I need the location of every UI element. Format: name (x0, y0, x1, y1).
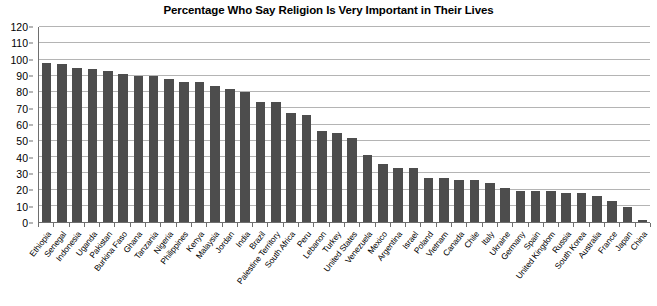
bar-slot[interactable] (192, 27, 207, 222)
bar[interactable] (195, 82, 205, 222)
bar[interactable] (561, 193, 571, 222)
bar[interactable] (638, 220, 648, 222)
x-axis-tick-mark (160, 223, 161, 227)
bar[interactable] (470, 180, 480, 222)
bar-slot[interactable] (574, 27, 589, 222)
bar-slot[interactable] (604, 27, 619, 222)
bar[interactable] (592, 196, 602, 222)
bar-slot[interactable] (284, 27, 299, 222)
bar-slot[interactable] (70, 27, 85, 222)
bar[interactable] (347, 138, 357, 223)
bar[interactable] (271, 102, 281, 222)
bar-slot[interactable] (146, 27, 161, 222)
bar[interactable] (134, 76, 144, 222)
x-axis-tick-mark (650, 223, 651, 227)
bar[interactable] (378, 164, 388, 223)
bar[interactable] (516, 191, 526, 222)
y-axis-tick-label: 100 (10, 54, 28, 66)
bar[interactable] (179, 82, 189, 222)
bar-slot[interactable] (543, 27, 558, 222)
bar-slot[interactable] (421, 27, 436, 222)
y-axis: 0102030405060708090100110120 (0, 27, 33, 223)
bar-slot[interactable] (406, 27, 421, 222)
y-axis-tick-label: 60 (16, 119, 28, 131)
y-axis-tick-label: 0 (22, 217, 28, 229)
bar-slot[interactable] (329, 27, 344, 222)
bar-slot[interactable] (482, 27, 497, 222)
bar-slot[interactable] (115, 27, 130, 222)
bar[interactable] (103, 71, 113, 222)
bar-slot[interactable] (207, 27, 222, 222)
bar[interactable] (317, 131, 327, 222)
bar[interactable] (577, 193, 587, 222)
bar[interactable] (546, 191, 556, 222)
bar-slot[interactable] (497, 27, 512, 222)
bar[interactable] (500, 188, 510, 222)
bar[interactable] (424, 178, 434, 222)
x-axis-tick-mark (206, 223, 207, 227)
bar-slot[interactable] (635, 27, 650, 222)
bar-slot[interactable] (100, 27, 115, 222)
bar-slot[interactable] (314, 27, 329, 222)
x-axis-tick-mark (420, 223, 421, 227)
y-axis-tick-mark (29, 223, 33, 224)
bar-slot[interactable] (528, 27, 543, 222)
x-axis-label-slot: China (635, 228, 650, 306)
bar[interactable] (42, 63, 52, 222)
y-axis-tick-mark (29, 59, 33, 60)
bar-slot[interactable] (436, 27, 451, 222)
y-axis-tick-mark (29, 125, 33, 126)
x-axis-tick-mark (267, 223, 268, 227)
bar-slot[interactable] (268, 27, 283, 222)
bar-slot[interactable] (375, 27, 390, 222)
bar[interactable] (286, 113, 296, 222)
bar[interactable] (256, 102, 266, 222)
bar-slot[interactable] (222, 27, 237, 222)
x-axis-tick-mark (573, 223, 574, 227)
bar[interactable] (302, 115, 312, 222)
bar-slot[interactable] (513, 27, 528, 222)
bar[interactable] (72, 68, 82, 222)
x-axis-tick-mark (604, 223, 605, 227)
bar-slot[interactable] (589, 27, 604, 222)
y-axis-tick-mark (29, 174, 33, 175)
bar-chart: Percentage Who Say Religion Is Very Impo… (0, 0, 657, 306)
bar[interactable] (485, 183, 495, 222)
y-axis-tick-label: 40 (16, 152, 28, 164)
bar-slot[interactable] (131, 27, 146, 222)
bar-slot[interactable] (620, 27, 635, 222)
bar[interactable] (393, 168, 403, 222)
bar-slot[interactable] (390, 27, 405, 222)
bar-slot[interactable] (559, 27, 574, 222)
bar[interactable] (118, 74, 128, 222)
bar[interactable] (225, 89, 235, 222)
bar[interactable] (409, 168, 419, 222)
bar-slot[interactable] (360, 27, 375, 222)
bar-slot[interactable] (161, 27, 176, 222)
bar[interactable] (88, 69, 98, 222)
bar[interactable] (210, 86, 220, 223)
bar-slot[interactable] (39, 27, 54, 222)
bar-slot[interactable] (467, 27, 482, 222)
bar[interactable] (164, 79, 174, 222)
bar[interactable] (439, 178, 449, 222)
x-axis-tick-mark (329, 223, 330, 227)
bar-slot[interactable] (177, 27, 192, 222)
bar[interactable] (623, 207, 633, 222)
bar[interactable] (332, 133, 342, 222)
bar-slot[interactable] (452, 27, 467, 222)
bar[interactable] (607, 201, 617, 222)
bar-slot[interactable] (85, 27, 100, 222)
bar[interactable] (240, 92, 250, 222)
y-axis-tick-label: 90 (16, 70, 28, 82)
bar[interactable] (149, 76, 159, 222)
bar[interactable] (531, 191, 541, 222)
bar[interactable] (454, 180, 464, 222)
bar-slot[interactable] (253, 27, 268, 222)
bar[interactable] (57, 64, 67, 222)
bar-slot[interactable] (299, 27, 314, 222)
bar[interactable] (363, 155, 373, 222)
bar-slot[interactable] (238, 27, 253, 222)
bar-slot[interactable] (54, 27, 69, 222)
bar-slot[interactable] (345, 27, 360, 222)
